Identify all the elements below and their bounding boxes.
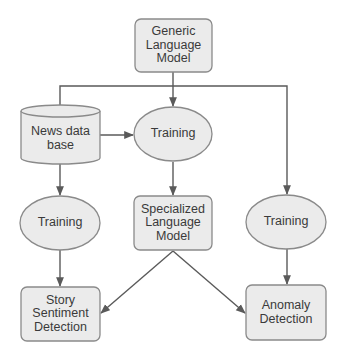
specialized-model-label: Specialized Language Model xyxy=(134,196,212,250)
story-sentiment-label: Story Sentiment Detection xyxy=(21,287,100,341)
edge-specialized-to-story xyxy=(101,251,173,313)
training-center-label: Training xyxy=(134,107,212,161)
edge-specialized-to-anomaly xyxy=(173,251,245,313)
anomaly-detection-label: Anomaly Detection xyxy=(246,285,326,340)
training-left-label: Training xyxy=(20,196,100,250)
training-right-label: Training xyxy=(246,195,326,249)
generic-model-label: Generic Language Model xyxy=(135,19,212,72)
news-database-label: News data base xyxy=(21,117,100,160)
